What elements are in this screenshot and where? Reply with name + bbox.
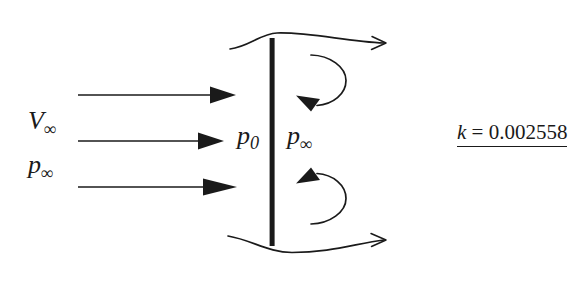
- wake-pressure-symbol: p: [287, 121, 300, 150]
- coefficient-label: k = 0.002558: [457, 122, 567, 147]
- stagnation-pressure-label: p0: [237, 123, 259, 153]
- freestream-velocity-symbol: V: [28, 106, 44, 135]
- figure-canvas: V∞ p∞ p0 p∞ k = 0.002558: [0, 0, 586, 282]
- freestream-pressure-label: p∞: [28, 152, 54, 182]
- upper-vortex-arrow: [296, 55, 346, 112]
- coefficient-variable: k: [457, 120, 466, 144]
- freestream-velocity-subscript: ∞: [44, 119, 57, 139]
- streamline-upper: [230, 33, 386, 50]
- inflow-arrow-middle: [78, 133, 224, 150]
- freestream-pressure-subscript: ∞: [41, 163, 54, 183]
- wake-pressure-label: p∞: [287, 123, 313, 153]
- streamline-lower: [228, 234, 386, 253]
- coefficient-value: 0.002558: [489, 120, 568, 144]
- lower-vortex-arrow: [296, 168, 346, 225]
- freestream-velocity-label: V∞: [28, 108, 57, 138]
- stagnation-pressure-subscript: 0: [250, 133, 259, 153]
- flat-plate: [270, 38, 275, 246]
- freestream-pressure-symbol: p: [28, 150, 41, 179]
- inflow-arrow-bottom: [78, 179, 237, 196]
- stagnation-pressure-symbol: p: [237, 121, 250, 150]
- inflow-arrow-top: [78, 87, 236, 104]
- wake-pressure-subscript: ∞: [300, 134, 313, 154]
- coefficient-equals: =: [466, 120, 488, 144]
